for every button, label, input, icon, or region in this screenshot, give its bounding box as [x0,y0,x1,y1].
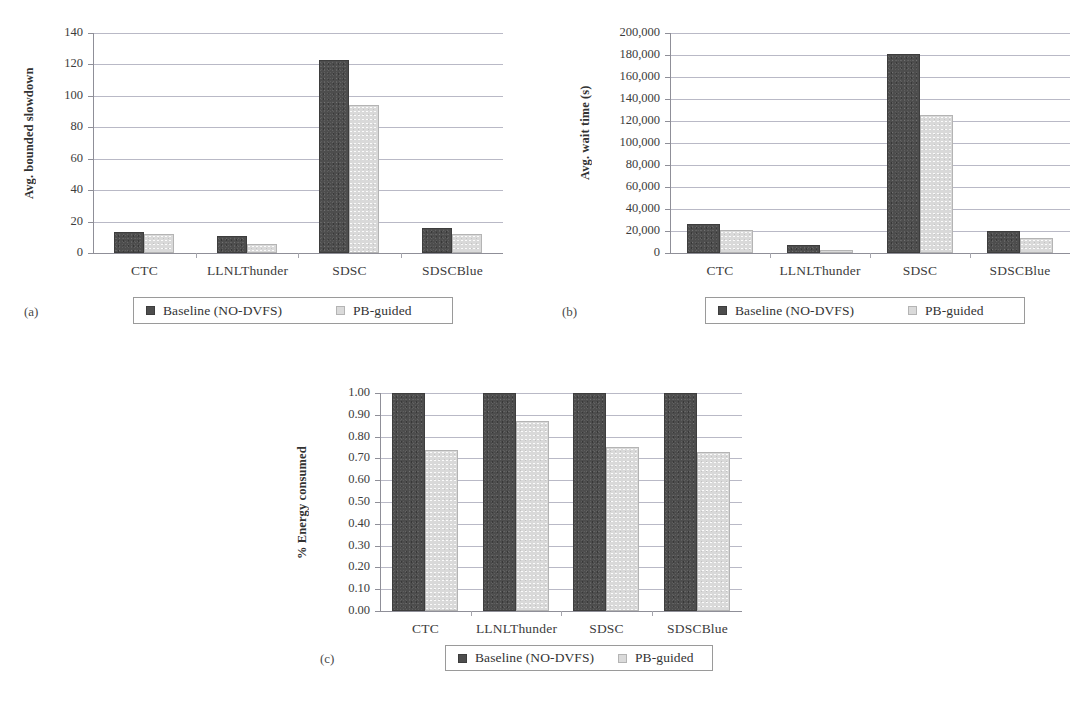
grid-line [93,64,503,65]
y-axis-tick-label: 20,000 [600,224,660,237]
y-axis-tick-label: 0.10 [322,582,370,595]
y-axis-tick-label: 100 [45,89,83,102]
legend-item-pbguided[interactable]: PB-guided [618,650,694,666]
x-tick-mark [561,611,562,616]
x-tick-mark [970,253,971,258]
y-tick-mark [665,253,670,254]
y-axis-tick-label: 0.90 [322,408,370,421]
bar-sdsc-baseline [573,393,606,611]
x-axis-tick-label-llnlthunder: LLNLThunder [770,263,870,279]
grid-line [670,99,1070,100]
grid-line [670,209,1070,210]
y-axis-tick-label: 200,000 [600,26,660,39]
bar-llnlthunder-pbguided [516,421,549,611]
legend-label-pbguided: PB-guided [635,650,694,666]
x-axis-tick-label-sdsc: SDSC [298,263,401,279]
grid-line [93,222,503,223]
y-axis-tick-label: 0.00 [322,604,370,617]
legend: Baseline (NO-DVFS) PB-guided [705,297,1025,324]
light-swatch-icon [618,654,627,663]
dark-swatch-icon [718,306,727,315]
y-axis-label: Avg. bounded slowdown [22,28,38,238]
y-tick-mark [88,253,93,254]
bar-llnlthunder-pbguided [247,244,277,253]
grid-line [670,165,1070,166]
y-axis-tick-label: 140,000 [600,92,660,105]
bar-ctc-baseline [114,232,144,253]
y-axis-tick-label: 0.20 [322,560,370,573]
x-tick-mark [770,253,771,258]
grid-line [670,121,1070,122]
plot-area: 020406080100120140CTCLLNLThunderSDSCSDSC… [93,33,503,253]
bar-sdsc-pbguided [349,105,379,253]
y-axis-tick-label: 160,000 [600,70,660,83]
y-axis-tick-label: 20 [45,215,83,228]
chart-avg-wait-time: Avg. wait time (s) 020,00040,00060,00080… [540,0,1092,340]
legend-label-baseline: Baseline (NO-DVFS) [163,303,282,319]
bar-sdsc-pbguided [920,115,953,253]
y-axis-tick-label: 40,000 [600,202,660,215]
x-axis-tick-label-llnlthunder: LLNLThunder [196,263,299,279]
legend: Baseline (NO-DVFS) PB-guided [445,645,713,671]
bar-sdscblue-pbguided [1020,238,1053,253]
bar-sdscblue-baseline [987,231,1020,253]
y-axis-line [670,33,671,253]
light-swatch-icon [908,306,917,315]
bar-llnlthunder-baseline [483,393,516,611]
grid-line [93,96,503,97]
x-tick-mark [298,253,299,258]
y-axis-tick-label: 120 [45,57,83,70]
y-axis-tick-label: 0 [600,246,660,259]
legend-label-pbguided: PB-guided [353,303,412,319]
x-tick-mark [471,611,472,616]
bar-sdsc-pbguided [606,447,639,611]
legend-item-baseline[interactable]: Baseline (NO-DVFS) [146,303,336,319]
y-axis-tick-label: 100,000 [600,136,660,149]
x-axis-tick-label-sdsc: SDSC [561,621,652,637]
y-axis-tick-label: 60 [45,152,83,165]
bar-sdsc-baseline [319,60,349,253]
x-tick-mark [401,253,402,258]
grid-line [670,55,1070,56]
plot-area: 0.000.100.200.300.400.500.600.700.800.90… [380,393,742,611]
y-axis-tick-label: 0.50 [322,495,370,508]
y-axis-tick-label: 0.30 [322,539,370,552]
light-swatch-icon [336,306,345,315]
subfigure-caption-a: (a) [24,304,38,320]
legend-item-baseline[interactable]: Baseline (NO-DVFS) [458,650,618,666]
bar-sdscblue-pbguided [452,234,482,253]
bar-llnlthunder-baseline [787,245,820,253]
plot-area: 020,00040,00060,00080,000100,000120,0001… [670,33,1070,253]
grid-line [93,159,503,160]
x-axis-tick-label-ctc: CTC [380,621,471,637]
bar-sdscblue-baseline [422,228,452,253]
legend-item-pbguided[interactable]: PB-guided [336,303,412,319]
bar-ctc-pbguided [144,234,174,253]
figure-page: { "page": { "background": "#ffffff", "co… [0,0,1092,721]
x-axis-tick-label-ctc: CTC [670,263,770,279]
bar-ctc-baseline [687,224,720,253]
y-axis-tick-label: 0.70 [322,451,370,464]
x-axis-tick-label-sdscblue: SDSCBlue [970,263,1070,279]
y-axis-label: Avg. wait time (s) [578,38,594,228]
bar-ctc-pbguided [720,230,753,253]
legend-item-pbguided[interactable]: PB-guided [908,303,984,319]
y-axis-tick-label: 1.00 [322,386,370,399]
bar-llnlthunder-pbguided [820,250,853,253]
y-axis-tick-label: 180,000 [600,48,660,61]
x-axis-tick-label-llnlthunder: LLNLThunder [471,621,562,637]
bar-llnlthunder-baseline [217,236,247,253]
y-axis-tick-label: 0.40 [322,517,370,530]
dark-swatch-icon [146,306,155,315]
subfigure-caption-c: (c) [320,651,334,667]
x-tick-mark [652,611,653,616]
y-axis-tick-label: 120,000 [600,114,660,127]
y-axis-label: % Energy consumed [295,395,311,610]
grid-line [670,143,1070,144]
subfigure-caption-b: (b) [562,304,577,320]
legend-item-baseline[interactable]: Baseline (NO-DVFS) [718,303,908,319]
bar-sdscblue-pbguided [697,452,730,611]
bar-sdsc-baseline [887,54,920,253]
y-axis-tick-label: 0 [45,246,83,259]
y-axis-line [380,393,381,611]
